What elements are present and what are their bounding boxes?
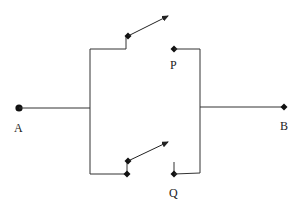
- parallel-switch-circuit: A P B Q: [0, 0, 296, 204]
- lower-branch-left-wire: [90, 161, 127, 174]
- lower-branch-right-wire: [174, 173, 200, 174]
- switch-p: [125, 16, 178, 53]
- switch-q-label: Q: [169, 186, 178, 200]
- switch-q-base-node: [124, 171, 131, 178]
- terminal-b-label: B: [280, 119, 288, 133]
- switch-p-arm-arrow-icon: [128, 16, 168, 36]
- switch-q: [124, 142, 178, 178]
- upper-branch-left-wire: [90, 36, 126, 49]
- switch-p-label: P: [170, 58, 177, 72]
- switch-q-arm-arrow-icon: [128, 142, 168, 161]
- terminal-b-node: [281, 104, 288, 111]
- terminal-a-label: A: [14, 121, 23, 135]
